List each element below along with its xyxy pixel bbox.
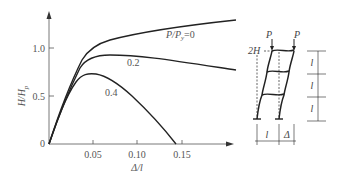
x-tick-label-0.05: 0.05 (84, 149, 102, 160)
x-axis-title: Δ/l (130, 162, 143, 173)
curve-label-p-py-0: P/Py=0 (165, 29, 195, 42)
lateral-load-label: 2H (248, 45, 261, 56)
curve-label-0.4: 0.4 (105, 87, 118, 98)
y-tick-label-1.0: 1.0 (33, 43, 46, 54)
load-label-left: P (265, 29, 272, 40)
load-label-right: P (293, 29, 300, 40)
x-tick-label-0.15: 0.15 (173, 149, 191, 160)
y-axis-arrow-icon (47, 11, 52, 19)
y-tick-label-0: 0 (40, 138, 45, 149)
svg-text:H/Hp: H/Hp (16, 85, 30, 107)
curve-p-py-0.2 (49, 55, 236, 144)
y-tick-label-0.5: 0.5 (33, 91, 46, 102)
story-label-1: l (311, 57, 314, 68)
y-axis-title-sub: p (22, 85, 30, 90)
story-label-2: l (311, 80, 314, 91)
width-label: l (266, 129, 269, 140)
column-right (279, 51, 294, 119)
x-tick-label-0.10: 0.10 (128, 149, 146, 160)
beam-level-2 (267, 71, 289, 72)
y-axis-title-main: H/H (16, 88, 27, 107)
y-axis-title: H/Hp (16, 85, 30, 107)
figure: 0 0.5 1.0 0.05 0.10 0.15 Δ/l H/Hp P/Py=0… (0, 0, 342, 181)
curve-p-py-0.4 (49, 74, 176, 144)
curve-label-0.2: 0.2 (127, 57, 140, 68)
beam-level-1 (262, 94, 284, 95)
x-axis-arrow-icon (226, 142, 234, 147)
curve-p-py-0 (49, 20, 236, 144)
frame-diagram: P P 2H l Δ l l l (248, 29, 326, 145)
story-label-3: l (311, 103, 314, 114)
column-left (257, 51, 272, 119)
beam-roof (272, 50, 294, 51)
chart: 0 0.5 1.0 0.05 0.10 0.15 Δ/l H/Hp P/Py=0… (16, 11, 236, 173)
drift-label: Δ (283, 129, 290, 140)
